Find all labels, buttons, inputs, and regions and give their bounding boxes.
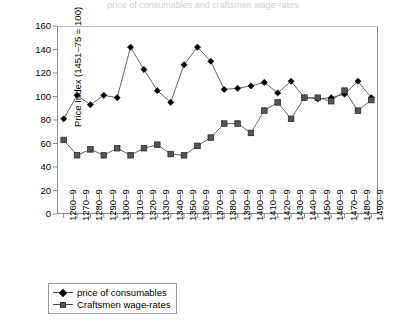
y-tick-label: 120 xyxy=(21,68,51,78)
y-tick-label: 60 xyxy=(21,139,51,149)
legend-label: Craftsmen wage-rates xyxy=(77,299,170,310)
clipped-chart-title: price of consumables and craftsmen wage-… xyxy=(0,0,406,10)
x-tick-label: 1350–9 xyxy=(188,189,198,221)
x-tick-label: 1370–9 xyxy=(215,189,225,221)
legend-item-craftsmen-wage-rates: Craftsmen wage-rates xyxy=(53,299,170,310)
x-tick-label: 1430–9 xyxy=(295,189,305,221)
square-marker-icon xyxy=(53,300,73,309)
y-tick-label: 140 xyxy=(21,45,51,55)
x-tick-label: 1440–9 xyxy=(308,189,318,221)
y-tick-label: 0 xyxy=(21,209,51,219)
x-tick-label: 1300–9 xyxy=(121,189,131,221)
diamond-marker-icon xyxy=(53,288,73,297)
x-tick-label: 1470–9 xyxy=(349,189,359,221)
x-tick-label: 1270–9 xyxy=(81,189,91,221)
legend-label: price of consumables xyxy=(77,287,167,298)
x-tick-label: 1400–9 xyxy=(255,189,265,221)
chart-legend: price of consumables Craftsmen wage-rate… xyxy=(48,283,177,314)
x-tick-label: 1420–9 xyxy=(282,189,292,221)
y-tick-label: 40 xyxy=(21,162,51,172)
x-tick-label: 1330–9 xyxy=(161,189,171,221)
x-tick-label: 1480–9 xyxy=(362,189,372,221)
x-tick-label: 1340–9 xyxy=(175,189,185,221)
x-tick-label: 1450–9 xyxy=(322,189,332,221)
y-tick-label: 160 xyxy=(21,21,51,31)
y-tick-label: 100 xyxy=(21,92,51,102)
chart-figure: price of consumables and craftsmen wage-… xyxy=(0,0,406,323)
x-tick-label: 1490–9 xyxy=(375,189,385,221)
x-tick-label: 1290–9 xyxy=(108,189,118,221)
x-tick-label: 1280–9 xyxy=(94,189,104,221)
plot-area xyxy=(57,26,378,214)
y-axis-title: Price Index (1451–75 = 100) xyxy=(72,0,86,162)
x-tick-label: 1410–9 xyxy=(268,189,278,221)
x-tick-label: 1320–9 xyxy=(148,189,158,221)
y-tick-label: 80 xyxy=(21,115,51,125)
x-tick-label: 1380–9 xyxy=(228,189,238,221)
x-tick-label: 1260–9 xyxy=(68,189,78,221)
x-tick-label: 1310–9 xyxy=(135,189,145,221)
x-tick-label: 1360–9 xyxy=(201,189,211,221)
legend-item-price-of-consumables: price of consumables xyxy=(53,287,170,298)
x-tick-label: 1390–9 xyxy=(242,189,252,221)
x-tick-label: 1460–9 xyxy=(335,189,345,221)
y-tick-label: 20 xyxy=(21,186,51,196)
